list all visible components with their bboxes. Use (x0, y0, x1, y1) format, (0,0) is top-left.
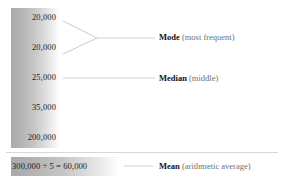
label-mean-term: Mean (159, 161, 180, 171)
label-median: Median (middle) (159, 73, 218, 84)
mean-equation: 300,000 ÷ 5 = 60,000 (12, 161, 87, 172)
label-mode-term: Mode (159, 32, 180, 42)
list-item: 20,000 (11, 12, 56, 22)
label-mean-paren: (arithmetic average) (180, 161, 251, 171)
list-item: 25,000 (11, 72, 56, 82)
label-mode: Mode (most frequent) (159, 32, 235, 43)
mode-branch-upper-line (63, 21, 97, 38)
value-list: 20,000 20,000 25,000 35,000 200,000 (11, 8, 56, 148)
label-mode-paren: (most frequent) (180, 32, 235, 42)
central-tendency-diagram: 20,000 20,000 25,000 35,000 200,000 300,… (0, 0, 284, 180)
list-item: 20,000 (11, 42, 56, 52)
label-mean: Mean (arithmetic average) (159, 161, 251, 172)
label-median-paren: (middle) (187, 73, 218, 83)
mode-branch-lower-line (63, 38, 97, 54)
list-item: 200,000 (11, 132, 56, 142)
label-median-term: Median (159, 73, 187, 83)
separator-rule (6, 152, 278, 153)
list-item: 35,000 (11, 102, 56, 112)
